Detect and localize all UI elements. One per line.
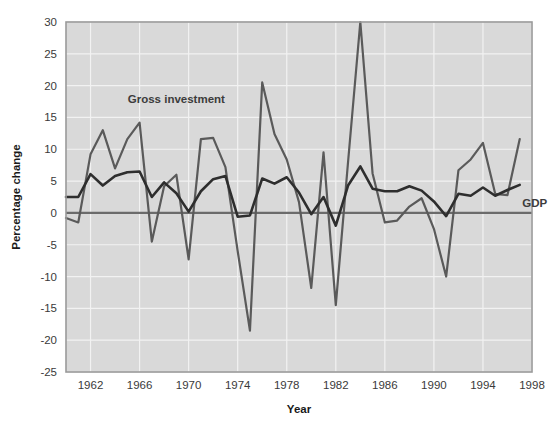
x-tick-label: 1990 xyxy=(421,379,447,391)
y-tick-label: -10 xyxy=(40,271,57,283)
y-tick-label: 20 xyxy=(44,80,57,92)
x-tick-label: 1966 xyxy=(127,379,153,391)
x-tick-label: 1962 xyxy=(78,379,104,391)
line-chart: 302520151050-5-10-15-20-25 1962196619701… xyxy=(0,0,552,425)
y-tick-label: 30 xyxy=(44,16,57,28)
series-label-gdp: GDP xyxy=(522,197,547,209)
y-axis-tick-labels: 302520151050-5-10-15-20-25 xyxy=(40,16,57,378)
plot-area-background xyxy=(66,22,532,372)
x-tick-label: 1986 xyxy=(372,379,398,391)
y-tick-label: 5 xyxy=(51,175,57,187)
chart-figure: 302520151050-5-10-15-20-25 1962196619701… xyxy=(0,0,552,425)
y-tick-label: -5 xyxy=(47,239,57,251)
y-tick-label: 25 xyxy=(44,48,57,60)
x-tick-label: 1994 xyxy=(470,379,496,391)
x-axis-title: Year xyxy=(287,403,312,415)
x-tick-label: 1970 xyxy=(176,379,202,391)
y-axis-title: Percentage change xyxy=(10,144,22,249)
y-tick-label: 0 xyxy=(51,207,57,219)
x-tick-label: 1978 xyxy=(274,379,300,391)
x-tick-label: 1974 xyxy=(225,379,251,391)
y-tick-label: -15 xyxy=(40,302,57,314)
y-tick-label: 10 xyxy=(44,143,57,155)
series-label-gross-investment: Gross investment xyxy=(128,93,225,105)
y-tick-label: 15 xyxy=(44,111,57,123)
y-tick-label: -20 xyxy=(40,334,57,346)
x-tick-label: 1982 xyxy=(323,379,349,391)
x-axis-tick-labels: 1962196619701974197819821986199019941998 xyxy=(78,379,545,391)
x-tick-label: 1998 xyxy=(519,379,545,391)
y-tick-label: -25 xyxy=(40,366,57,378)
